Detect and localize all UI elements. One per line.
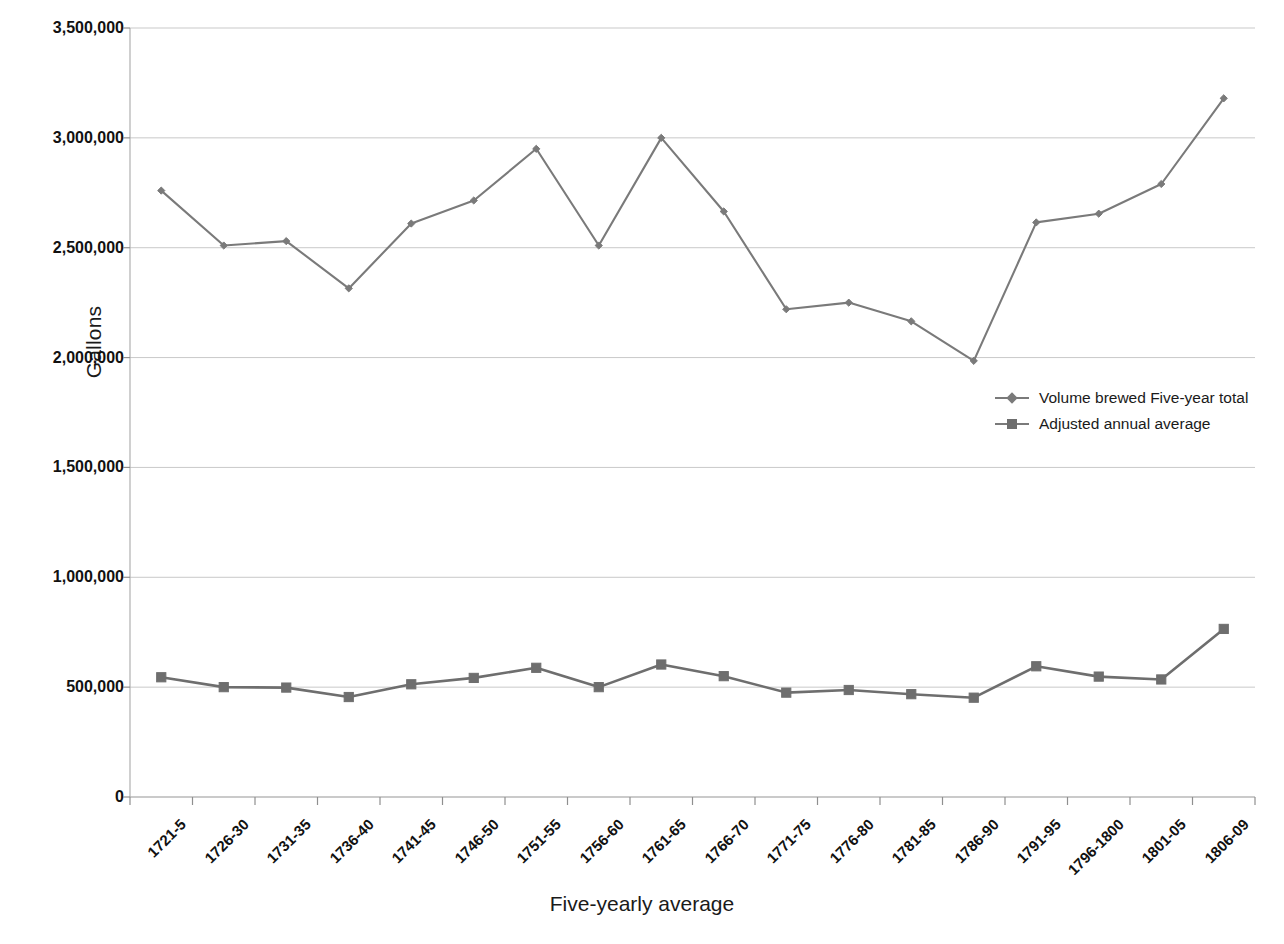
data-point-marker[interactable]: [282, 683, 291, 692]
data-point-marker[interactable]: [1033, 219, 1040, 226]
chart-container: Gallons 3,500,0003,000,0002,500,0002,000…: [0, 0, 1284, 944]
data-point-marker[interactable]: [344, 692, 353, 701]
data-point-marker[interactable]: [907, 690, 916, 699]
data-point-marker[interactable]: [469, 673, 478, 682]
data-point-marker[interactable]: [594, 683, 603, 692]
data-point-marker[interactable]: [1157, 675, 1166, 684]
x-axis-title: Five-yearly average: [0, 892, 1284, 916]
data-point-marker[interactable]: [845, 299, 852, 306]
legend-label-adjusted-average: Adjusted annual average: [1039, 415, 1211, 433]
data-point-marker[interactable]: [1095, 210, 1102, 217]
legend-label-volume-brewed: Volume brewed Five-year total: [1039, 389, 1248, 407]
data-point-marker[interactable]: [1219, 624, 1228, 633]
data-point-marker[interactable]: [219, 683, 228, 692]
data-point-marker[interactable]: [719, 672, 728, 681]
data-point-marker[interactable]: [407, 680, 416, 689]
data-point-marker[interactable]: [532, 663, 541, 672]
data-point-marker[interactable]: [1094, 672, 1103, 681]
data-point-marker[interactable]: [844, 685, 853, 694]
data-point-marker[interactable]: [1032, 662, 1041, 671]
diamond-marker-icon: [995, 391, 1029, 405]
data-point-marker[interactable]: [157, 673, 166, 682]
plot-area: [0, 0, 1284, 944]
data-point-marker[interactable]: [782, 688, 791, 697]
chart-legend: Volume brewed Five-year total Adjusted a…: [995, 385, 1248, 437]
data-point-marker[interactable]: [969, 693, 978, 702]
data-point-marker[interactable]: [657, 660, 666, 669]
legend-item-adjusted-average[interactable]: Adjusted annual average: [995, 411, 1248, 437]
square-marker-icon: [995, 417, 1029, 431]
legend-item-volume-brewed[interactable]: Volume brewed Five-year total: [995, 385, 1248, 411]
